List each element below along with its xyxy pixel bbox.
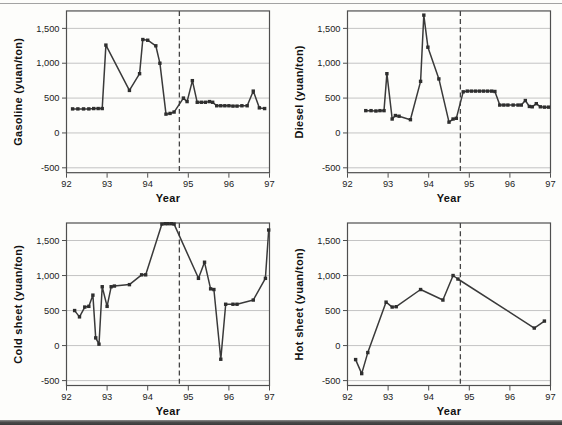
data-marker <box>426 46 429 49</box>
data-marker <box>223 104 226 107</box>
x-tick-label: 95 <box>183 392 193 402</box>
x-tick-label: 95 <box>464 392 474 402</box>
y-tick-label: 500 <box>325 93 341 103</box>
data-marker <box>539 105 542 108</box>
y-tick-label: 0 <box>335 341 340 351</box>
data-marker <box>498 103 501 106</box>
data-marker <box>252 298 255 301</box>
data-marker <box>547 105 550 108</box>
y-tick-label: 1,000 <box>36 58 59 68</box>
data-marker <box>141 38 144 41</box>
cold-sheet-x-axis-title: Year <box>156 405 181 417</box>
data-marker <box>101 285 104 288</box>
data-marker <box>204 101 207 104</box>
y-tick-label: 1,000 <box>36 271 59 281</box>
data-marker <box>224 303 227 306</box>
data-marker <box>422 13 425 16</box>
y-tick-label: 1,500 <box>36 24 59 34</box>
y-tick-label: -500 <box>41 163 60 173</box>
data-marker <box>109 285 112 288</box>
x-tick-label: 96 <box>505 179 515 189</box>
data-marker <box>94 336 97 339</box>
data-marker <box>385 72 388 75</box>
data-marker <box>158 62 161 65</box>
x-tick-label: 95 <box>464 179 474 189</box>
data-marker <box>470 89 473 92</box>
data-marker <box>96 107 99 110</box>
data-marker <box>168 112 171 115</box>
data-marker <box>71 107 74 110</box>
cold-sheet-chart: -50005001,0001,500929394959697Cold sheet… <box>0 212 281 425</box>
data-marker <box>128 283 131 286</box>
y-tick-label: 1,500 <box>36 236 59 246</box>
x-tick-label: 97 <box>545 179 555 189</box>
gasoline-series-line <box>73 40 265 115</box>
data-marker <box>219 104 222 107</box>
plot-frame <box>348 11 551 173</box>
data-marker <box>466 89 469 92</box>
y-tick-label: -500 <box>322 376 341 386</box>
chart-cell-hot-sheet: -50005001,0001,500929394959697Hot sheet … <box>281 212 562 425</box>
data-marker <box>128 89 131 92</box>
x-tick-label: 96 <box>505 392 515 402</box>
chart-cell-gasoline: -50005001,0001,500929394959697Gasoline (… <box>0 0 281 212</box>
data-marker <box>441 298 444 301</box>
x-tick-label: 93 <box>383 392 393 402</box>
x-tick-label: 92 <box>61 179 71 189</box>
data-marker <box>146 39 149 42</box>
data-marker <box>97 342 100 345</box>
data-marker <box>378 109 381 112</box>
diesel-chart: -50005001,0001,500929394959697Diesel (yu… <box>281 0 562 212</box>
y-tick-label: 500 <box>44 93 60 103</box>
data-marker <box>506 103 509 106</box>
data-marker <box>191 79 194 82</box>
data-marker <box>490 89 493 92</box>
data-marker <box>197 277 200 280</box>
x-tick-label: 94 <box>424 392 434 402</box>
data-marker <box>390 117 393 120</box>
data-marker <box>531 105 534 108</box>
data-marker <box>354 358 357 361</box>
data-marker <box>447 120 450 123</box>
data-marker <box>231 104 234 107</box>
data-marker <box>138 72 141 75</box>
data-marker <box>482 89 485 92</box>
data-marker <box>164 112 167 115</box>
x-tick-label: 97 <box>264 392 274 402</box>
data-marker <box>182 96 185 99</box>
data-marker <box>369 109 372 112</box>
data-marker <box>245 104 248 107</box>
data-marker <box>267 228 270 231</box>
x-tick-label: 95 <box>183 179 193 189</box>
data-marker <box>478 89 481 92</box>
data-marker <box>76 107 79 110</box>
data-marker <box>101 107 104 110</box>
data-marker <box>451 117 454 120</box>
data-marker <box>252 89 255 92</box>
data-marker <box>154 44 157 47</box>
data-marker <box>160 222 163 225</box>
chart-row-bottom: -50005001,0001,500929394959697Cold sheet… <box>0 212 562 425</box>
data-marker <box>258 106 261 109</box>
data-marker <box>263 107 266 110</box>
x-tick-label: 93 <box>102 179 112 189</box>
data-marker <box>82 107 85 110</box>
bottom-scan-edge <box>0 420 562 425</box>
data-marker <box>231 303 234 306</box>
data-marker <box>73 309 76 312</box>
y-tick-label: -500 <box>322 163 341 173</box>
data-marker <box>211 101 214 104</box>
data-marker <box>215 104 218 107</box>
data-marker <box>486 89 489 92</box>
data-marker <box>409 118 412 121</box>
data-marker <box>208 100 211 103</box>
data-marker <box>394 114 397 117</box>
x-tick-label: 94 <box>143 392 153 402</box>
cold-sheet-y-axis-title: Cold sheet (yuan/ton) <box>12 245 24 364</box>
data-marker <box>382 109 385 112</box>
data-marker <box>144 273 147 276</box>
data-marker <box>520 103 523 106</box>
cold-sheet-series-line <box>75 224 269 360</box>
gasoline-chart: -50005001,0001,500929394959697Gasoline (… <box>0 0 281 212</box>
data-marker <box>543 105 546 108</box>
